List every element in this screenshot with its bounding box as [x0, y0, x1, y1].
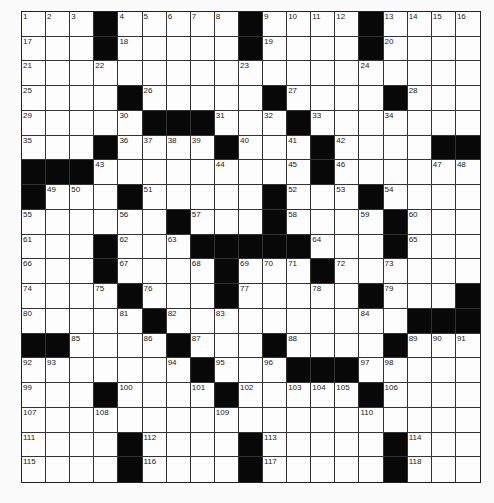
grid-cell[interactable]: 88	[287, 334, 311, 359]
grid-cell[interactable]	[167, 37, 191, 62]
grid-cell[interactable]	[432, 210, 456, 235]
grid-cell[interactable]: 66	[22, 259, 46, 284]
grid-cell[interactable]	[432, 185, 456, 210]
grid-cell[interactable]	[118, 61, 142, 86]
grid-cell[interactable]: 12	[335, 12, 359, 37]
grid-cell[interactable]	[215, 457, 239, 482]
grid-cell[interactable]: 75	[94, 284, 118, 309]
grid-cell[interactable]	[167, 86, 191, 111]
grid-cell[interactable]: 30	[118, 111, 142, 136]
grid-cell[interactable]	[432, 259, 456, 284]
grid-cell[interactable]: 89	[408, 334, 432, 359]
grid-cell[interactable]: 82	[167, 309, 191, 334]
grid-cell[interactable]	[456, 86, 480, 111]
grid-cell[interactable]: 95	[215, 358, 239, 383]
grid-cell[interactable]	[215, 433, 239, 458]
grid-cell[interactable]	[46, 210, 70, 235]
grid-cell[interactable]	[384, 136, 408, 161]
grid-cell[interactable]	[359, 160, 383, 185]
grid-cell[interactable]: 17	[22, 37, 46, 62]
grid-cell[interactable]	[456, 235, 480, 260]
grid-cell[interactable]: 113	[263, 433, 287, 458]
grid-cell[interactable]	[70, 433, 94, 458]
grid-cell[interactable]	[408, 160, 432, 185]
grid-cell[interactable]	[359, 334, 383, 359]
grid-cell[interactable]	[359, 86, 383, 111]
grid-cell[interactable]	[263, 136, 287, 161]
grid-cell[interactable]: 15	[432, 12, 456, 37]
grid-cell[interactable]	[118, 358, 142, 383]
grid-cell[interactable]: 6	[167, 12, 191, 37]
grid-cell[interactable]	[432, 61, 456, 86]
grid-cell[interactable]: 116	[143, 457, 167, 482]
grid-cell[interactable]	[191, 86, 215, 111]
grid-cell[interactable]: 31	[215, 111, 239, 136]
grid-cell[interactable]: 94	[167, 358, 191, 383]
grid-cell[interactable]	[456, 383, 480, 408]
grid-cell[interactable]	[335, 457, 359, 482]
grid-cell[interactable]	[191, 185, 215, 210]
grid-cell[interactable]: 20	[384, 37, 408, 62]
grid-cell[interactable]: 79	[384, 284, 408, 309]
grid-cell[interactable]	[263, 160, 287, 185]
grid-cell[interactable]	[408, 259, 432, 284]
grid-cell[interactable]: 57	[191, 210, 215, 235]
grid-cell[interactable]	[408, 185, 432, 210]
grid-cell[interactable]: 8	[215, 12, 239, 37]
grid-cell[interactable]	[239, 111, 263, 136]
grid-cell[interactable]	[432, 457, 456, 482]
grid-cell[interactable]: 26	[143, 86, 167, 111]
grid-cell[interactable]	[335, 86, 359, 111]
grid-cell[interactable]	[335, 210, 359, 235]
grid-cell[interactable]: 41	[287, 136, 311, 161]
grid-cell[interactable]	[408, 61, 432, 86]
grid-cell[interactable]	[70, 457, 94, 482]
grid-cell[interactable]	[143, 383, 167, 408]
grid-cell[interactable]	[239, 358, 263, 383]
grid-cell[interactable]	[432, 86, 456, 111]
grid-cell[interactable]: 102	[239, 383, 263, 408]
grid-cell[interactable]: 2	[46, 12, 70, 37]
grid-cell[interactable]	[191, 37, 215, 62]
grid-cell[interactable]: 91	[456, 334, 480, 359]
grid-cell[interactable]	[335, 433, 359, 458]
grid-cell[interactable]: 51	[143, 185, 167, 210]
grid-cell[interactable]	[167, 259, 191, 284]
grid-cell[interactable]	[311, 86, 335, 111]
grid-cell[interactable]: 52	[287, 185, 311, 210]
grid-cell[interactable]	[432, 383, 456, 408]
grid-cell[interactable]: 81	[118, 309, 142, 334]
grid-cell[interactable]	[167, 185, 191, 210]
grid-cell[interactable]: 90	[432, 334, 456, 359]
grid-cell[interactable]	[432, 235, 456, 260]
grid-cell[interactable]	[46, 259, 70, 284]
grid-cell[interactable]: 9	[263, 12, 287, 37]
grid-cell[interactable]	[191, 160, 215, 185]
grid-cell[interactable]	[335, 408, 359, 433]
grid-cell[interactable]	[94, 358, 118, 383]
grid-cell[interactable]: 13	[384, 12, 408, 37]
grid-cell[interactable]	[384, 309, 408, 334]
grid-cell[interactable]	[359, 235, 383, 260]
grid-cell[interactable]: 103	[287, 383, 311, 408]
grid-cell[interactable]: 108	[94, 408, 118, 433]
grid-cell[interactable]	[70, 86, 94, 111]
grid-cell[interactable]: 87	[191, 334, 215, 359]
grid-cell[interactable]	[46, 383, 70, 408]
grid-cell[interactable]: 24	[359, 61, 383, 86]
grid-cell[interactable]	[46, 136, 70, 161]
grid-cell[interactable]: 70	[263, 259, 287, 284]
grid-cell[interactable]: 100	[118, 383, 142, 408]
grid-cell[interactable]: 106	[384, 383, 408, 408]
grid-cell[interactable]	[311, 457, 335, 482]
grid-cell[interactable]: 33	[311, 111, 335, 136]
grid-cell[interactable]	[143, 408, 167, 433]
grid-cell[interactable]	[167, 160, 191, 185]
grid-cell[interactable]: 42	[335, 136, 359, 161]
grid-cell[interactable]: 62	[118, 235, 142, 260]
grid-cell[interactable]	[432, 284, 456, 309]
grid-cell[interactable]: 56	[118, 210, 142, 235]
grid-cell[interactable]	[167, 284, 191, 309]
grid-cell[interactable]	[432, 358, 456, 383]
grid-cell[interactable]: 59	[359, 210, 383, 235]
